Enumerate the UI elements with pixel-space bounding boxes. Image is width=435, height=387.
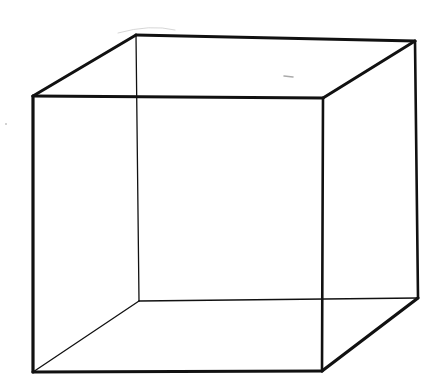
edge-back-bottom: [139, 298, 418, 301]
edge-top-back: [136, 35, 415, 41]
edge-front-bottom: [33, 371, 322, 372]
cube-drawing: [0, 0, 435, 387]
edge-back-right-vertical: [415, 41, 418, 298]
edge-top-right-diagonal: [323, 41, 415, 98]
pencil-mark: [284, 76, 293, 77]
pencil-dot: [5, 123, 7, 125]
edge-top-left-diagonal: [33, 35, 136, 96]
edge-back-left-vertical: [136, 35, 139, 301]
edge-front-right: [322, 98, 323, 371]
edge-front-top: [33, 96, 323, 98]
edge-bottom-left-diagonal: [33, 301, 139, 372]
edge-bottom-right-diagonal: [322, 298, 418, 371]
pencil-smudge: [118, 28, 175, 33]
